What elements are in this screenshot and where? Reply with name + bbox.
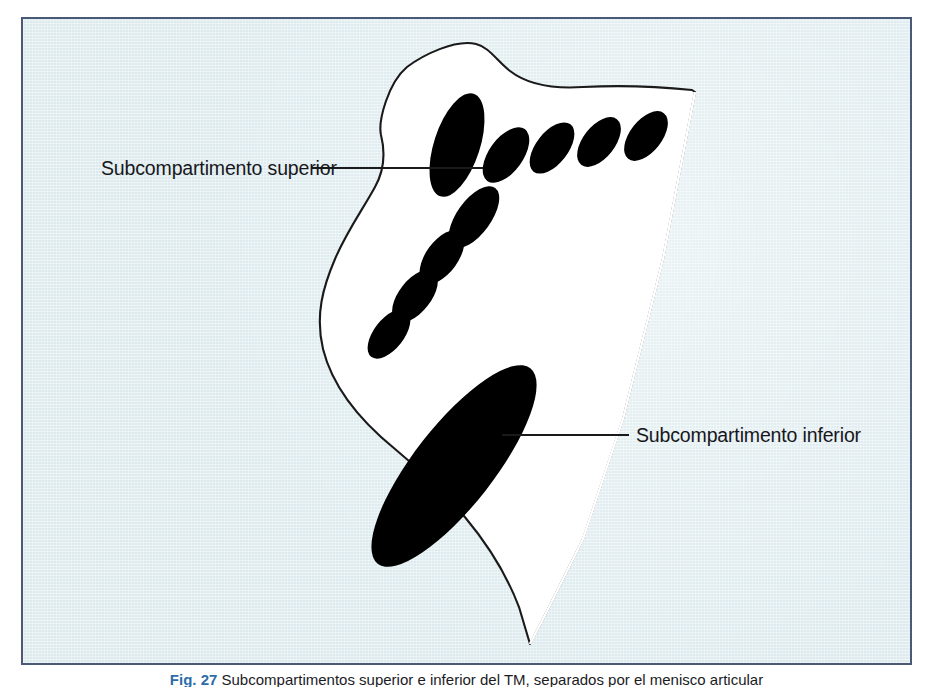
anatomy-illustration bbox=[23, 19, 912, 665]
figure-number: Fig. 27 bbox=[170, 671, 222, 687]
callout-label-inferior: Subcompartimento inferior bbox=[636, 424, 861, 447]
figure-caption: Fig. 27 Subcompartimentos superior e inf… bbox=[21, 670, 912, 687]
callout-label-superior: Subcompartimento superior bbox=[101, 157, 337, 180]
figure-caption-text: Subcompartimentos superior e inferior de… bbox=[222, 671, 764, 687]
figure-root: Subcompartimento superior Subcompartimen… bbox=[0, 0, 933, 687]
illustration-panel: Subcompartimento superior Subcompartimen… bbox=[21, 17, 912, 665]
